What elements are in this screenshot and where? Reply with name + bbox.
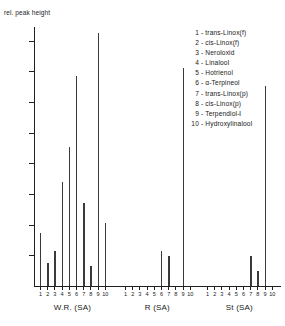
bar xyxy=(98,33,99,286)
x-axis-tick xyxy=(207,286,208,290)
x-axis-tick xyxy=(90,286,91,290)
x-axis-tick xyxy=(229,286,230,290)
x-axis-tick-label: 10 xyxy=(100,291,110,297)
x-axis-tick xyxy=(168,286,169,290)
legend-item: 10 - Hydroxylinalool xyxy=(190,119,252,129)
legend-item-number: 5 xyxy=(190,68,199,78)
legend-item-number: 1 xyxy=(190,28,199,38)
group-label: W.R. (SA) xyxy=(54,303,91,312)
legend-item: 2 - cis-Linox(f) xyxy=(190,38,252,48)
bar xyxy=(54,251,55,286)
x-axis-tick xyxy=(250,286,251,290)
x-axis-tick xyxy=(98,286,99,290)
x-axis-tick xyxy=(154,286,155,290)
legend-item: 5 - Hotrienol xyxy=(190,68,252,78)
bar xyxy=(40,233,41,286)
x-axis-tick xyxy=(139,286,140,290)
x-axis-tick xyxy=(47,286,48,290)
y-axis-tick xyxy=(29,41,34,42)
legend-item-number: 8 xyxy=(190,99,199,109)
legend-item-number: 3 xyxy=(190,48,199,58)
y-axis-tick xyxy=(29,102,34,103)
legend-item-label: Terpendiol-Ⅰ xyxy=(205,110,241,117)
bar xyxy=(47,263,48,286)
legend-item: 1 - trans-Linox(f) xyxy=(190,28,252,38)
legend-item: 7 - trans-Linox(p) xyxy=(190,89,252,99)
x-axis-tick xyxy=(221,286,222,290)
x-axis-tick xyxy=(147,286,148,290)
legend-item-number: 10 xyxy=(190,119,199,129)
group-label: R (SA) xyxy=(145,303,170,312)
bar xyxy=(62,182,63,286)
legend-item-label: cis-Linox(p) xyxy=(205,100,241,107)
x-axis-tick xyxy=(62,286,63,290)
legend-item-label: Linalool xyxy=(205,59,229,66)
bar xyxy=(250,256,251,286)
legend-item-number: 9 xyxy=(190,109,199,119)
bar xyxy=(183,68,184,286)
y-axis-tick xyxy=(29,225,34,226)
bar xyxy=(76,76,77,286)
x-axis-tick xyxy=(175,286,176,290)
y-axis-label: rel. peak height xyxy=(4,9,50,16)
bar xyxy=(90,266,91,286)
y-axis-tick xyxy=(29,163,34,164)
bar xyxy=(105,223,106,286)
legend-item-number: 4 xyxy=(190,58,199,68)
legend-item-label: cis-Linox(f) xyxy=(205,39,239,46)
legend-item-number: 2 xyxy=(190,38,199,48)
x-axis-tick xyxy=(105,286,106,290)
bar xyxy=(69,147,70,286)
x-axis-tick xyxy=(272,286,273,290)
x-axis-tick xyxy=(190,286,191,290)
x-axis-tick xyxy=(257,286,258,290)
bar xyxy=(257,271,258,286)
x-axis-tick xyxy=(243,286,244,290)
bar xyxy=(168,256,169,286)
x-axis-tick xyxy=(132,286,133,290)
x-axis-tick xyxy=(214,286,215,290)
bar xyxy=(265,86,266,286)
x-axis-tick xyxy=(236,286,237,290)
legend-item-label: Hotrienol xyxy=(205,69,233,76)
y-axis-tick xyxy=(29,194,34,195)
y-axis-tick xyxy=(29,255,34,256)
x-axis-tick xyxy=(125,286,126,290)
legend-item: 9 - Terpendiol-Ⅰ xyxy=(190,109,252,119)
x-axis-tick xyxy=(69,286,70,290)
group-label: St (SA) xyxy=(226,303,253,312)
legend-item-label: Neroloxid xyxy=(205,49,234,56)
legend-item: 6 - α-Terpineol xyxy=(190,78,252,88)
y-axis-tick xyxy=(29,133,34,134)
x-axis-tick xyxy=(54,286,55,290)
chart-figure: rel. peak height 1 - trans-Linox(f)2 - c… xyxy=(0,0,285,326)
x-axis-tick xyxy=(183,286,184,290)
x-axis-tick xyxy=(161,286,162,290)
bar xyxy=(161,251,162,286)
legend-item-label: trans-Linox(f) xyxy=(205,29,246,36)
y-axis-tick xyxy=(29,71,34,72)
x-axis-tick-label: 10 xyxy=(267,291,277,297)
legend-item-label: α-Terpineol xyxy=(205,79,239,86)
x-axis-tick-label: 10 xyxy=(185,291,195,297)
x-axis-tick xyxy=(76,286,77,290)
legend-item: 4 - Linalool xyxy=(190,58,252,68)
bar xyxy=(83,203,84,287)
legend-item-label: Hydroxylinalool xyxy=(205,120,252,127)
legend-item-number: 7 xyxy=(190,89,199,99)
legend-item: 3 - Neroloxid xyxy=(190,48,252,58)
legend-item-number: 6 xyxy=(190,78,199,88)
legend-item: 8 - cis-Linox(p) xyxy=(190,99,252,109)
legend: 1 - trans-Linox(f)2 - cis-Linox(f)3 - Ne… xyxy=(190,28,252,129)
x-axis-tick xyxy=(265,286,266,290)
x-axis-tick xyxy=(40,286,41,290)
x-axis-tick xyxy=(83,286,84,290)
y-axis-line xyxy=(34,27,35,286)
legend-item-label: trans-Linox(p) xyxy=(205,90,248,97)
